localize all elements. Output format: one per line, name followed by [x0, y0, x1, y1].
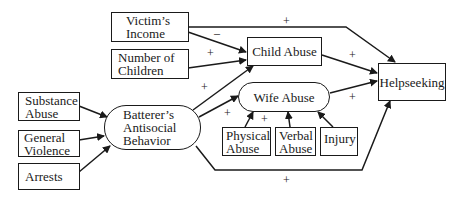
- node-batterers-antisocial-behavior: Batterer’s Antisocial Behavior: [104, 105, 201, 150]
- sign-childabuse-helpseeking: +: [349, 49, 356, 61]
- node-label: Injury: [324, 132, 354, 145]
- node-label: Wife Abuse: [253, 91, 314, 104]
- node-label: Child Abuse: [252, 45, 317, 58]
- edge-children-childabuse: [188, 60, 246, 68]
- sign-abb-childabuse: +: [201, 81, 208, 93]
- node-victims-income: Victim’s Income: [111, 12, 189, 42]
- edge-injury-wifeabuse: [318, 112, 333, 127]
- node-label: Physical: [226, 129, 267, 142]
- node-label: Substance: [25, 94, 73, 107]
- node-label: Children: [118, 64, 182, 77]
- sign-income-helpseeking: +: [283, 15, 290, 27]
- edge-abb-wifeabuse: [199, 96, 238, 117]
- node-child-abuse: Child Abuse: [247, 37, 322, 66]
- edge-arrests-abb: [79, 146, 110, 172]
- node-label: General: [24, 131, 73, 144]
- sign-physical-wifeabuse: +: [261, 113, 268, 125]
- sign-abb-helpseeking: +: [283, 174, 290, 186]
- node-general-violence: General Violence: [18, 130, 80, 157]
- sign-income-childabuse: –: [214, 27, 220, 39]
- node-label: Behavior: [123, 134, 194, 147]
- node-physical-abuse: Physical Abuse: [222, 127, 271, 156]
- node-label: Helpseeking: [380, 76, 445, 89]
- node-helpseeking: Helpseeking: [378, 63, 446, 101]
- node-label: Abuse: [279, 142, 312, 155]
- node-label: Abuse: [25, 107, 73, 120]
- node-verbal-abuse: Verbal Abuse: [275, 127, 316, 156]
- node-label: Verbal: [279, 129, 312, 142]
- edge-physical-wifeabuse: [245, 112, 253, 127]
- node-label: Income: [118, 27, 182, 40]
- edge-violence-abb: [79, 136, 104, 140]
- edge-substance-abb: [79, 106, 107, 117]
- sign-abb-wifeabuse: +: [224, 107, 231, 119]
- node-arrests: Arrests: [18, 163, 80, 190]
- node-label: Abuse: [226, 142, 267, 155]
- sign-children-childabuse: +: [207, 47, 214, 59]
- node-injury: Injury: [320, 127, 358, 156]
- node-substance-abuse: Substance Abuse: [18, 92, 80, 121]
- node-number-of-children: Number of Children: [111, 49, 189, 79]
- node-label: Arrests: [25, 170, 73, 183]
- sign-wifeabuse-helpseeking: +: [349, 91, 356, 103]
- node-label: Violence: [24, 144, 73, 157]
- edge-verbal-wifeabuse: [288, 112, 290, 127]
- node-wife-abuse: Wife Abuse: [238, 82, 330, 112]
